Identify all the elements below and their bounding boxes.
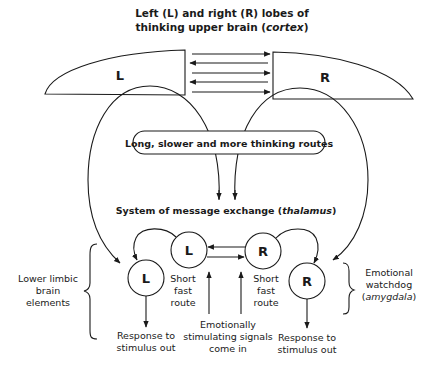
title-line-2: thinking upper brain (cortex) bbox=[136, 21, 309, 33]
lower-limbic-label: Lower limbic brain elements bbox=[18, 273, 78, 308]
emotional-signals-label: Emotionally stimulating signals come in bbox=[183, 319, 273, 354]
svg-text:Lower limbic: Lower limbic bbox=[18, 273, 78, 284]
right-short-loop bbox=[276, 229, 318, 263]
left-brace bbox=[84, 244, 97, 339]
lower-right-amygdala-label: R bbox=[302, 274, 312, 289]
svg-text:brain: brain bbox=[36, 285, 60, 296]
svg-text:Response to: Response to bbox=[117, 330, 175, 341]
right-brace bbox=[343, 263, 354, 314]
svg-text:route: route bbox=[170, 297, 195, 308]
response-left-label: Response to stimulus out bbox=[117, 330, 176, 353]
svg-text:stimulus out: stimulus out bbox=[278, 344, 337, 355]
right-cortex-lobe bbox=[273, 52, 413, 99]
svg-text:come in: come in bbox=[209, 343, 247, 354]
svg-text:Emotional: Emotional bbox=[365, 267, 413, 278]
right-long-route-loop bbox=[235, 88, 368, 260]
right-cortex-label: R bbox=[320, 70, 330, 85]
svg-text:watchdog: watchdog bbox=[366, 279, 412, 290]
svg-text:fast: fast bbox=[174, 285, 192, 296]
svg-text:elements: elements bbox=[26, 297, 70, 308]
thalamus-label: System of message exchange (thalamus) bbox=[116, 205, 337, 216]
amygdala-label: Emotional watchdog (amygdala) bbox=[362, 267, 416, 302]
thinking-routes-label: Long, slower and more thinking routes bbox=[125, 138, 334, 149]
brain-diagram: Left (L) and right (R) lobes of thinking… bbox=[0, 0, 438, 374]
svg-text:(amygdala): (amygdala) bbox=[362, 291, 416, 302]
left-long-route-loop bbox=[88, 86, 219, 263]
svg-text:Short: Short bbox=[170, 273, 196, 284]
left-cortex-label: L bbox=[116, 68, 124, 83]
svg-text:stimulus out: stimulus out bbox=[117, 342, 176, 353]
upper-left-limbic-label: L bbox=[185, 243, 193, 258]
short-route-left-label: Short fast route bbox=[170, 273, 196, 308]
short-route-right-label: Short fast route bbox=[253, 273, 279, 308]
svg-text:route: route bbox=[253, 297, 278, 308]
svg-text:stimulating signals: stimulating signals bbox=[183, 331, 273, 342]
left-short-loop bbox=[134, 229, 176, 260]
upper-right-limbic-label: R bbox=[258, 244, 268, 259]
lower-left-amygdala-label: L bbox=[142, 271, 150, 286]
svg-text:Emotionally: Emotionally bbox=[200, 319, 256, 330]
title-line-1: Left (L) and right (R) lobes of bbox=[135, 7, 309, 19]
response-right-label: Response to stimulus out bbox=[278, 332, 337, 355]
cortex-exchange-arrows bbox=[190, 54, 270, 92]
svg-text:Short: Short bbox=[253, 273, 279, 284]
svg-text:fast: fast bbox=[257, 285, 275, 296]
svg-text:Response to: Response to bbox=[278, 332, 336, 343]
